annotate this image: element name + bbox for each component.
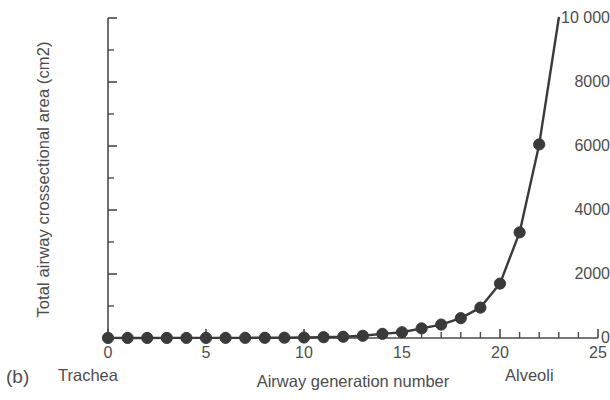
data-series-line bbox=[102, 18, 558, 344]
data-point-marker bbox=[181, 332, 192, 343]
data-point-marker bbox=[279, 332, 290, 343]
series-line bbox=[108, 18, 559, 338]
data-point-marker bbox=[436, 319, 447, 330]
data-point-marker bbox=[298, 332, 309, 343]
data-point-marker bbox=[102, 332, 113, 343]
data-point-marker bbox=[377, 328, 388, 339]
data-point-marker bbox=[318, 332, 329, 343]
plot-area bbox=[0, 0, 610, 400]
figure-panel: (b) Total airway crossectional area (cm2… bbox=[0, 0, 610, 400]
data-point-marker bbox=[455, 313, 466, 324]
data-point-marker bbox=[357, 330, 368, 341]
data-point-marker bbox=[259, 332, 270, 343]
data-point-marker bbox=[534, 139, 545, 150]
data-point-marker bbox=[200, 332, 211, 343]
data-point-marker bbox=[161, 332, 172, 343]
data-point-marker bbox=[142, 332, 153, 343]
data-point-marker bbox=[122, 332, 133, 343]
data-point-marker bbox=[220, 332, 231, 343]
axes bbox=[108, 18, 598, 338]
data-point-marker bbox=[240, 332, 251, 343]
data-point-marker bbox=[475, 302, 486, 313]
data-point-marker bbox=[396, 327, 407, 338]
data-point-marker bbox=[494, 278, 505, 289]
data-point-marker bbox=[338, 331, 349, 342]
data-point-marker bbox=[514, 227, 525, 238]
data-point-marker bbox=[416, 323, 427, 334]
